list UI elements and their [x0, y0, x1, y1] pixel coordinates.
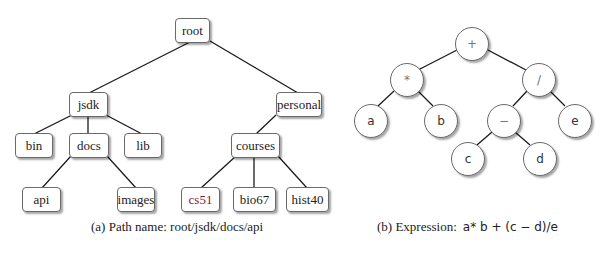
- node-docs: docs: [69, 133, 109, 158]
- node-courses: courses: [231, 133, 280, 158]
- node-label: personal: [277, 97, 321, 113]
- node-divide: /: [522, 63, 556, 97]
- node-label: lib: [136, 138, 150, 154]
- node-cs51: cs51: [181, 187, 220, 212]
- node-times: *: [390, 63, 424, 97]
- node-minus: −: [487, 104, 521, 138]
- node-label: b: [437, 114, 445, 128]
- node-c: c: [451, 142, 485, 176]
- node-e: e: [558, 104, 592, 138]
- node-label: docs: [77, 138, 101, 154]
- node-label: /: [537, 73, 541, 87]
- node-label: d: [536, 152, 544, 166]
- node-label: jsdk: [78, 97, 100, 113]
- node-hist40: hist40: [286, 187, 329, 212]
- node-label: bin: [26, 138, 43, 154]
- caption-b: (b) Expression:a* b + (c − d)/e: [377, 219, 558, 235]
- node-label: +: [467, 37, 477, 51]
- node-b: b: [424, 104, 458, 138]
- node-label: api: [34, 192, 50, 208]
- node-images: images: [117, 187, 155, 212]
- node-label: *: [404, 73, 410, 87]
- caption-b-expression: a* b + (c − d)/e: [463, 220, 558, 234]
- node-bin: bin: [15, 133, 53, 158]
- node-label: root: [182, 23, 203, 39]
- node-label: a: [367, 114, 374, 128]
- node-personal: personal: [276, 92, 322, 117]
- figure: root jsdk personal bin docs lib courses …: [0, 0, 608, 254]
- node-api: api: [22, 187, 61, 212]
- caption-b-label: (b) Expression:: [377, 219, 457, 234]
- node-label: −: [499, 114, 509, 128]
- node-jsdk: jsdk: [69, 92, 108, 117]
- node-d: d: [523, 142, 557, 176]
- node-label: hist40: [292, 192, 324, 208]
- node-label: cs51: [189, 192, 213, 208]
- caption-a: (a) Path name: root/jsdk/docs/api: [91, 219, 263, 235]
- node-label: bio67: [240, 192, 270, 208]
- node-label: courses: [236, 138, 275, 154]
- node-plus: +: [455, 27, 489, 61]
- node-root: root: [175, 18, 210, 43]
- node-lib: lib: [124, 133, 162, 158]
- node-label: e: [571, 114, 578, 128]
- node-label: images: [118, 192, 155, 208]
- node-label: c: [465, 152, 472, 166]
- node-a: a: [354, 104, 388, 138]
- node-bio67: bio67: [233, 187, 276, 212]
